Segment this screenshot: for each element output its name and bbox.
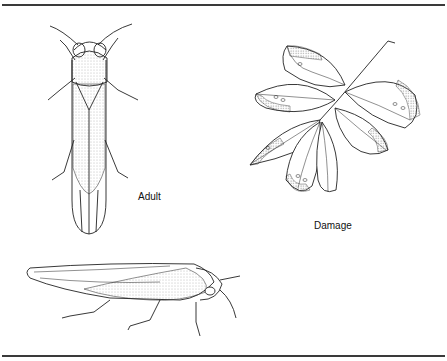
damage-label: Damage [314,220,352,231]
illustration-canvas [0,0,447,361]
leafhopper-dorsal-drawing [48,24,138,234]
adult-label: Adult [138,191,161,202]
leafhopper-lateral-drawing [27,264,240,337]
leaf-damage-drawing [250,41,420,192]
